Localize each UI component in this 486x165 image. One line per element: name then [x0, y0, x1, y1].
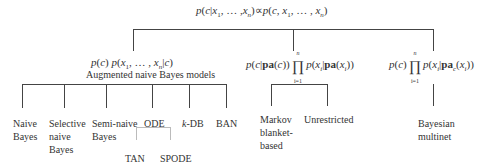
markov-horizontal-connector — [271, 84, 327, 85]
leaf-selective-naive-bayes: Selective naive Bayes — [49, 117, 86, 156]
markov-formula: p(c|pa(c))n∏i=1p(xi|pa(xi)) — [246, 58, 354, 75]
selective-nb-stem — [64, 84, 65, 108]
leaf-k-db: k-DB — [182, 117, 204, 130]
semi-naive-stem — [106, 84, 107, 108]
ode-stem — [152, 84, 153, 108]
leaf-ban: BAN — [216, 117, 237, 130]
multinet-formula: p(c)n∏i=1p(xi|pac(xi)) — [389, 58, 474, 75]
unrestricted-stem — [327, 84, 328, 106]
spode-stem — [170, 127, 171, 140]
root-horizontal-connector — [133, 29, 434, 30]
anb-horizontal-connector — [22, 84, 227, 85]
kdb-stem — [189, 84, 190, 108]
multinet-stem — [433, 29, 434, 51]
ban-stem — [226, 84, 227, 108]
root-formula: p(c|x1, … ,xn)∝p(c, x1, … , xn) — [196, 4, 327, 19]
naive-bayes-stem — [22, 84, 23, 108]
anb-stem — [133, 29, 134, 51]
leaf-naive-bayes: Naive Bayes — [13, 117, 37, 143]
leaf-markov-blanket-based: Markov blanket- based — [260, 113, 293, 152]
node-ode: ODE — [144, 117, 165, 130]
bayesian-multinet-stem — [433, 84, 434, 106]
leaf-spode: SPODE — [160, 152, 192, 165]
ode-sub-horizontal — [136, 127, 171, 128]
markov-blanket-stem — [271, 84, 272, 106]
markov-stem — [293, 29, 294, 51]
leaf-unrestricted: Unrestricted — [304, 113, 353, 126]
bayesian-classifier-taxonomy-diagram: p(c|x1, … ,xn)∝p(c, x1, … , xn) p(c) p(x… — [0, 0, 486, 165]
anb-caption: Augmented naive Bayes models — [86, 69, 215, 80]
leaf-semi-naive-bayes: Semi-naive Bayes — [92, 117, 138, 143]
tan-stem — [136, 127, 137, 140]
leaf-tan: TAN — [125, 152, 145, 165]
leaf-bayesian-multinet: Bayesian multinet — [418, 117, 455, 143]
